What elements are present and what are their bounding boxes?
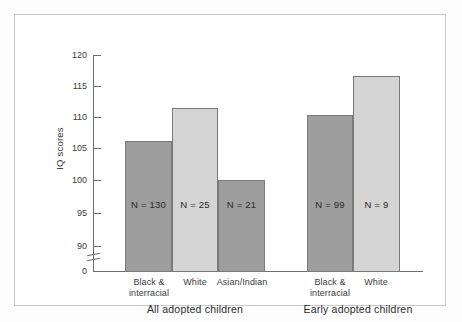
y-tick-label-120: 120 xyxy=(61,50,87,60)
category-label-line1: Black & xyxy=(302,277,358,288)
y-tick-110 xyxy=(93,117,101,118)
y-tick-label-zero: 0 xyxy=(61,266,87,276)
category-label-line1: Asian/Indian xyxy=(214,277,270,288)
y-tick-label-105: 105 xyxy=(61,143,87,153)
bar-n-label: N = 99 xyxy=(308,199,352,210)
group-label-early-adopted: Early adopted children xyxy=(273,303,443,315)
bar-black-interracial-all[interactable]: N = 130 xyxy=(125,141,172,272)
bar-white-early[interactable]: N = 9 xyxy=(353,76,400,272)
y-axis-break-icon xyxy=(87,251,100,263)
figure-frame: 120 115 110 105 100 95 90 0 IQ scores N … xyxy=(14,14,446,306)
y-tick-90 xyxy=(93,246,101,247)
y-tick-label-110: 110 xyxy=(61,112,87,122)
category-label-line1: White xyxy=(170,277,220,288)
category-label-black-interracial-all: Black & interracial xyxy=(121,277,177,299)
category-label-line2: interracial xyxy=(121,288,177,299)
bar-black-interracial-early[interactable]: N = 99 xyxy=(307,115,353,272)
y-tick-115 xyxy=(93,86,101,87)
y-tick-95 xyxy=(93,213,101,214)
chart-plot-area: 120 115 110 105 100 95 90 0 IQ scores N … xyxy=(15,15,445,305)
category-label-white-early: White xyxy=(351,277,401,288)
category-label-line1: White xyxy=(351,277,401,288)
category-label-white-all: White xyxy=(170,277,220,288)
bar-n-label: N = 9 xyxy=(354,199,399,210)
y-axis-line xyxy=(93,55,94,272)
y-tick-105 xyxy=(93,148,101,149)
bar-n-label: N = 25 xyxy=(173,199,217,210)
category-label-asian-indian-all: Asian/Indian xyxy=(214,277,270,288)
category-label-line2: interracial xyxy=(302,288,358,299)
group-label-all-adopted: All adopted children xyxy=(115,303,275,315)
y-axis-title: IQ scores xyxy=(54,89,65,209)
y-tick-label-100: 100 xyxy=(61,175,87,185)
category-label-line1: Black & xyxy=(121,277,177,288)
y-tick-label-90: 90 xyxy=(61,241,87,251)
y-tick-label-95: 95 xyxy=(61,208,87,218)
y-tick-120 xyxy=(93,55,101,56)
y-tick-label-115: 115 xyxy=(61,81,87,91)
bar-asian-indian-all[interactable]: N = 21 xyxy=(218,180,265,272)
figure-page: 120 115 110 105 100 95 90 0 IQ scores N … xyxy=(0,0,462,322)
bar-n-label: N = 21 xyxy=(219,199,264,210)
category-label-black-interracial-early: Black & interracial xyxy=(302,277,358,299)
y-tick-100 xyxy=(93,180,101,181)
bar-n-label: N = 130 xyxy=(126,199,171,210)
bar-white-all[interactable]: N = 25 xyxy=(172,108,218,272)
